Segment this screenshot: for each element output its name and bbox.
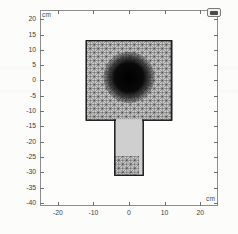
x-tick-mark	[93, 10, 94, 14]
y-tick-label: -25	[6, 154, 36, 161]
y-tick-mark	[214, 157, 218, 158]
x-tick-label: -20	[45, 210, 71, 217]
y-tick-label: -15	[6, 123, 36, 130]
y-tick-label: -40	[6, 200, 36, 207]
y-tick-label: -5	[6, 92, 36, 99]
y-tick-mark	[40, 172, 44, 173]
x-tick-mark	[129, 10, 130, 14]
y-axis-unit-label: cm	[42, 12, 51, 19]
y-tick-mark	[214, 142, 218, 143]
y-tick-label: 10	[6, 46, 36, 53]
y-tick-mark	[40, 35, 44, 36]
x-tick-mark	[200, 10, 201, 14]
y-tick-mark	[214, 111, 218, 112]
x-tick-mark	[165, 10, 166, 14]
y-tick-mark	[214, 172, 218, 173]
y-tick-mark	[214, 35, 218, 36]
x-tick-label: 20	[187, 210, 213, 217]
window-icon-glyph	[210, 11, 218, 15]
y-tick-mark	[214, 19, 218, 20]
y-tick-label: -20	[6, 138, 36, 145]
y-tick-mark	[214, 96, 218, 97]
x-axis-unit-label: cm	[206, 196, 215, 203]
y-tick-mark	[214, 80, 218, 81]
y-tick-mark	[214, 65, 218, 66]
x-tick-label: 0	[116, 210, 142, 217]
y-tick-label: -35	[6, 184, 36, 191]
x-tick-mark	[58, 202, 59, 206]
y-tick-mark	[40, 65, 44, 66]
y-tick-mark	[40, 111, 44, 112]
y-tick-label: 5	[6, 62, 36, 69]
x-tick-mark	[93, 202, 94, 206]
y-tick-mark	[40, 80, 44, 81]
window-icon[interactable]	[207, 8, 221, 17]
x-tick-label: -10	[80, 210, 106, 217]
y-tick-mark	[40, 188, 44, 189]
x-tick-mark	[58, 10, 59, 14]
y-tick-mark	[40, 142, 44, 143]
x-tick-label: 10	[152, 210, 178, 217]
y-tick-mark	[40, 96, 44, 97]
y-tick-mark	[214, 203, 218, 204]
y-tick-label: -30	[6, 169, 36, 176]
plot-frame	[40, 10, 218, 206]
y-tick-mark	[40, 157, 44, 158]
y-tick-label: -10	[6, 108, 36, 115]
y-tick-mark	[40, 126, 44, 127]
figure-canvas: cm cm 20151050-5-10-15-20-25-30-35-40 -2…	[0, 0, 238, 234]
y-tick-mark	[40, 50, 44, 51]
x-tick-mark	[200, 202, 201, 206]
y-tick-mark	[40, 203, 44, 204]
x-tick-mark	[165, 202, 166, 206]
y-tick-label: 15	[6, 31, 36, 38]
y-tick-mark	[214, 188, 218, 189]
y-tick-mark	[40, 19, 44, 20]
y-tick-mark	[214, 126, 218, 127]
y-tick-mark	[214, 50, 218, 51]
y-tick-label: 0	[6, 77, 36, 84]
y-tick-label: 20	[6, 16, 36, 23]
x-tick-mark	[129, 202, 130, 206]
